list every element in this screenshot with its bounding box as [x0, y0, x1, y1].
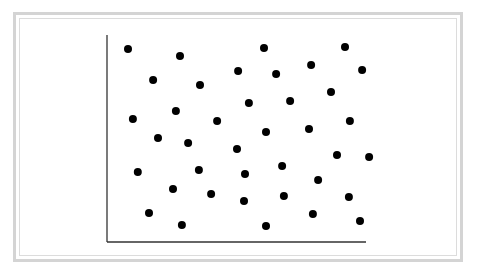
data-point	[346, 117, 354, 125]
data-point	[280, 192, 288, 200]
data-point	[134, 168, 142, 176]
data-point	[333, 151, 341, 159]
data-point	[176, 52, 184, 60]
data-point	[272, 70, 280, 78]
data-point	[196, 81, 204, 89]
data-point	[341, 43, 349, 51]
data-point	[172, 107, 180, 115]
data-point	[241, 170, 249, 178]
data-point	[213, 117, 221, 125]
data-point	[309, 210, 317, 218]
data-point	[129, 115, 137, 123]
data-point	[154, 134, 162, 142]
data-point	[124, 45, 132, 53]
data-point	[278, 162, 286, 170]
data-point	[234, 67, 242, 75]
data-point	[305, 125, 313, 133]
data-point	[286, 97, 294, 105]
data-point	[365, 153, 373, 161]
data-point	[149, 76, 157, 84]
data-point	[260, 44, 268, 52]
data-point	[314, 176, 322, 184]
scatter-plot	[0, 0, 477, 280]
data-point	[327, 88, 335, 96]
data-point	[233, 145, 241, 153]
data-point	[240, 197, 248, 205]
data-point	[262, 128, 270, 136]
data-point	[178, 221, 186, 229]
data-point	[345, 193, 353, 201]
data-point	[245, 99, 253, 107]
data-point	[307, 61, 315, 69]
data-point	[195, 166, 203, 174]
data-point	[184, 139, 192, 147]
data-point	[169, 185, 177, 193]
data-point	[358, 66, 366, 74]
data-point	[262, 222, 270, 230]
data-point	[145, 209, 153, 217]
data-point	[356, 217, 364, 225]
data-point	[207, 190, 215, 198]
data-points	[124, 43, 373, 230]
